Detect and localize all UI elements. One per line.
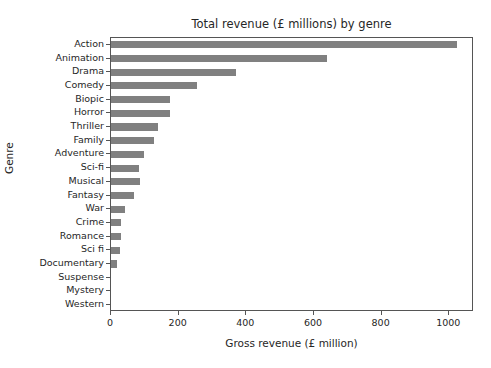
plot-area	[110, 37, 473, 311]
y-tick-mark	[106, 140, 110, 141]
y-tick-mark	[106, 181, 110, 182]
y-tick-label: Horror	[74, 108, 104, 118]
y-tick-mark	[106, 249, 110, 250]
chart-figure: Total revenue (£ millions) by genre Genr…	[0, 0, 491, 368]
y-axis-tick-labels: ActionAnimationDramaComedyBiopicHorrorTh…	[0, 37, 104, 311]
y-tick-mark	[106, 304, 110, 305]
bar	[111, 206, 125, 213]
bar-row	[111, 165, 472, 172]
bar-row	[111, 219, 472, 226]
bar	[111, 110, 170, 117]
x-tick-label: 200	[169, 317, 187, 328]
y-tick-mark	[106, 263, 110, 264]
x-tick-label: 600	[304, 317, 322, 328]
bar	[111, 247, 120, 254]
bar-row	[111, 151, 472, 158]
y-tick-mark	[106, 290, 110, 291]
y-tick-mark	[106, 222, 110, 223]
y-tick-mark	[106, 167, 110, 168]
x-tick-mark	[313, 311, 314, 315]
bar-row	[111, 178, 472, 185]
x-tick-mark	[245, 311, 246, 315]
bar-row	[111, 110, 472, 117]
y-tick-mark	[106, 126, 110, 127]
bar-row	[111, 247, 472, 254]
bar	[111, 178, 140, 185]
bar	[111, 260, 117, 267]
bar-row	[111, 260, 472, 267]
bar-row	[111, 192, 472, 199]
y-tick-label: Fantasy	[67, 190, 104, 200]
y-tick-mark	[106, 99, 110, 100]
y-tick-mark	[106, 71, 110, 72]
bar-row	[111, 41, 472, 48]
bar	[111, 55, 327, 62]
y-tick-label: Documentary	[39, 258, 104, 268]
x-axis-ticks: 02004006008001000	[110, 311, 473, 339]
y-tick-label: Drama	[72, 67, 104, 77]
bar-row	[111, 96, 472, 103]
bar	[111, 96, 170, 103]
x-tick-label: 0	[107, 317, 113, 328]
y-tick-label: Action	[74, 39, 104, 49]
y-tick-label: Sci fi	[81, 245, 104, 255]
x-tick-mark	[448, 311, 449, 315]
y-tick-label: Musical	[69, 176, 105, 186]
y-tick-label: Suspense	[58, 272, 104, 282]
bar-row	[111, 55, 472, 62]
bar	[111, 151, 144, 158]
y-tick-label: Thriller	[71, 121, 104, 131]
bar	[111, 137, 154, 144]
x-tick-mark	[381, 311, 382, 315]
bar-row	[111, 82, 472, 89]
y-tick-label: Animation	[56, 53, 104, 63]
bar	[111, 69, 236, 76]
bar-row	[111, 69, 472, 76]
y-tick-label: Adventure	[55, 149, 104, 159]
y-tick-mark	[106, 277, 110, 278]
y-tick-label: Sci-fi	[81, 162, 104, 172]
x-tick-label: 800	[372, 317, 390, 328]
y-tick-mark	[106, 236, 110, 237]
bar-row	[111, 137, 472, 144]
y-tick-mark	[106, 208, 110, 209]
y-tick-label: Mystery	[66, 286, 104, 296]
y-tick-label: Romance	[60, 231, 104, 241]
y-tick-mark	[106, 44, 110, 45]
y-tick-label: War	[85, 204, 104, 214]
bar	[111, 192, 134, 199]
bar-row	[111, 233, 472, 240]
y-tick-mark	[106, 195, 110, 196]
y-tick-mark	[106, 58, 110, 59]
y-tick-label: Comedy	[65, 80, 104, 90]
bar-row	[111, 302, 472, 309]
bar-row	[111, 123, 472, 130]
bar	[111, 219, 121, 226]
x-tick-mark	[110, 311, 111, 315]
x-axis-label: Gross revenue (£ million)	[110, 337, 473, 349]
bar	[111, 82, 197, 89]
y-tick-label: Western	[65, 299, 104, 309]
y-tick-label: Family	[73, 135, 104, 145]
chart-title: Total revenue (£ millions) by genre	[110, 17, 473, 31]
bar	[111, 165, 139, 172]
x-tick-mark	[178, 311, 179, 315]
bar	[111, 233, 121, 240]
x-tick-label: 1000	[436, 317, 460, 328]
x-tick-label: 400	[236, 317, 254, 328]
y-tick-label: Biopic	[75, 94, 104, 104]
y-tick-label: Crime	[76, 217, 104, 227]
bar-row	[111, 274, 472, 281]
bars-layer	[111, 38, 472, 310]
y-tick-mark	[106, 112, 110, 113]
y-tick-mark	[106, 85, 110, 86]
bar-row	[111, 288, 472, 295]
bar-row	[111, 206, 472, 213]
bar	[111, 41, 457, 48]
bar	[111, 123, 158, 130]
y-tick-mark	[106, 153, 110, 154]
